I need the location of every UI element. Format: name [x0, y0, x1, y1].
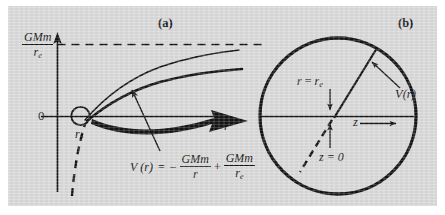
panel-a-re-label: re [75, 128, 83, 142]
panel-a-y-axis [53, 32, 62, 192]
panel-a-xaxis-label: r [224, 120, 229, 133]
panel-b-re-sub: e [319, 80, 323, 89]
panel-a-yaxis-label: GMm re [22, 31, 53, 60]
equation-term2-denominator: re [224, 166, 255, 181]
panel-b-radial-line [334, 48, 377, 118]
equation-term2: GMm re [224, 152, 255, 181]
panel-a-potential-curve-thin [85, 50, 239, 120]
equation-term1: GMm r [180, 153, 211, 180]
panel-a-zero-label: 0 [38, 109, 45, 122]
panel-a-re-label-sub: e [80, 133, 84, 142]
panel-b-z-axis-label: z [353, 116, 358, 129]
equation-term1-numerator: GMm [180, 153, 211, 167]
yaxis-numerator: GMm [22, 31, 53, 45]
equation-equals: = [158, 161, 165, 173]
equation-plus: + [214, 161, 221, 173]
panel-a-vr-leader [132, 90, 160, 151]
equation-term2-denominator-sub: e [240, 172, 244, 181]
yaxis-denominator-sub: e [38, 51, 42, 60]
yaxis-denominator: re [22, 45, 53, 60]
panel-a-x-axis [41, 112, 229, 121]
figure-plate: (a) (b) GMm re 0 re r V(r) = − GMm r + G [8, 6, 437, 206]
panel-b-potential-label: V(r) [395, 88, 416, 101]
panel-b-radial-dashed [300, 120, 332, 172]
equation-term1-denominator: r [180, 167, 211, 180]
panel-b-r-equals-re: r=re [297, 75, 323, 89]
panel-b-z-equals-zero: z = 0 [319, 151, 344, 163]
equation-lhs-func: V [130, 161, 137, 173]
figure-root: (a) (b) GMm re 0 re r V(r) = − GMm r + G [0, 0, 445, 215]
equation-minus: − [170, 161, 177, 173]
panel-a-equation: V(r) = − GMm r + GMm re [130, 152, 255, 181]
panel-b-tag: (b) [398, 17, 413, 30]
panel-a-tag: (a) [158, 17, 173, 30]
equation-term2-numerator: GMm [224, 152, 255, 166]
equation-lhs-arg: (r) [140, 161, 153, 173]
